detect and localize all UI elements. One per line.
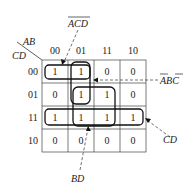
- cell: 0: [131, 89, 136, 100]
- cell: 0: [53, 135, 58, 146]
- col-header: 01: [76, 45, 86, 56]
- cell: 1: [53, 66, 58, 77]
- cell: 1: [105, 112, 110, 123]
- col-header: 00: [50, 45, 60, 56]
- cell: 1: [105, 89, 110, 100]
- cell: 0: [105, 135, 110, 146]
- cell: 1: [131, 112, 136, 123]
- cell: 1: [79, 112, 84, 123]
- arrow-bd: [86, 126, 91, 131]
- row-header: 11: [28, 112, 38, 123]
- cell: 0: [79, 135, 84, 146]
- row-header: 00: [28, 66, 38, 77]
- col-header: 11: [102, 45, 112, 56]
- cell: 1: [53, 112, 58, 123]
- label-cd: CD: [163, 134, 178, 145]
- cell: 1: [79, 89, 84, 100]
- cell: 0: [53, 89, 58, 100]
- row-header: 10: [28, 135, 38, 146]
- row-var-label: CD: [12, 50, 27, 61]
- label-abc: ABC: [159, 75, 179, 86]
- cell: 0: [105, 66, 110, 77]
- col-header: 10: [128, 45, 138, 56]
- label-acd: ACD: [67, 18, 89, 29]
- cell: 0: [131, 135, 136, 146]
- cell: 1: [79, 66, 84, 77]
- col-var-label: AB: [22, 36, 35, 47]
- karnaugh-map-diagram: AB CD 00 01 11 10 00 01 11 10 1 1 0 0 0 …: [0, 0, 192, 193]
- row-header: 01: [28, 89, 38, 100]
- label-bd: BD: [71, 173, 85, 184]
- cell: 0: [131, 66, 136, 77]
